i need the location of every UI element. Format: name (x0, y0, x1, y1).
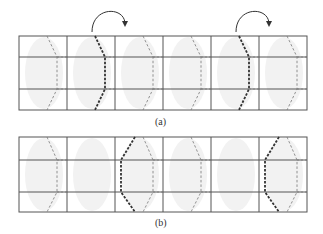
ellipse-shading (265, 37, 303, 109)
ellipse-shading (73, 37, 111, 109)
fold-arrow-icon (92, 11, 125, 32)
ellipse-shading (169, 138, 207, 211)
ellipse-shading (73, 138, 111, 211)
fold-arrow-icon (236, 11, 269, 32)
ellipse-shading (169, 37, 207, 109)
ellipse-shading (217, 138, 255, 211)
ellipse-shading (25, 138, 63, 211)
ellipse-shading (25, 37, 63, 109)
panel-b (19, 137, 308, 212)
panel-a (19, 11, 308, 110)
caption-a: (a) (155, 116, 166, 127)
ellipse-shading (217, 37, 255, 109)
caption-b: (b) (155, 217, 167, 228)
ellipse-shading (121, 37, 159, 109)
